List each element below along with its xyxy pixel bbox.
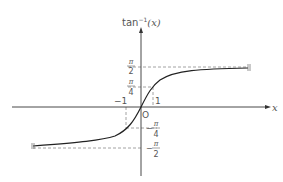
origin-label: O: [142, 110, 149, 120]
y-axis-arrow-icon: [139, 27, 143, 33]
x-tick-1: 1: [155, 96, 161, 106]
svg-text:−: −: [146, 124, 153, 133]
svg-text:π: π: [128, 58, 134, 66]
y-tick-pi-over-4: π 4: [127, 78, 135, 97]
x-axis-label: x: [272, 102, 278, 113]
y-tick-neg-pi-over-4: − π 4: [146, 120, 160, 139]
svg-text:4: 4: [153, 130, 158, 139]
svg-text:π: π: [128, 78, 134, 86]
svg-text:π: π: [153, 140, 159, 148]
arctan-graph: tan−1(x) x O −1 1 π 2 π 4 − π 4 − π 2: [0, 0, 283, 182]
y-tick-neg-pi-over-2: − π 2: [146, 140, 160, 159]
y-axis-label: tan−1(x): [122, 16, 161, 28]
svg-text:π: π: [153, 120, 159, 128]
svg-text:4: 4: [128, 88, 133, 97]
svg-text:2: 2: [153, 150, 158, 159]
x-axis-arrow-icon: [265, 105, 271, 109]
svg-text:2: 2: [128, 67, 133, 76]
x-tick-neg-1: −1: [114, 96, 127, 106]
svg-text:−: −: [146, 144, 153, 153]
